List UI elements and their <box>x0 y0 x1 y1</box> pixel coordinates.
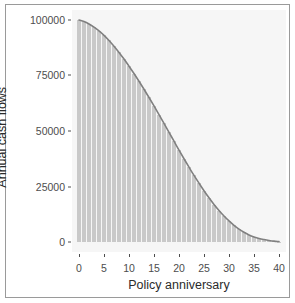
chart-figure: 0250005000075000100000 0510152025303540 … <box>0 0 295 303</box>
y-tick-mark <box>68 19 71 20</box>
x-tick-mark <box>129 254 130 257</box>
y-tick-label: 0 <box>59 237 65 248</box>
y-tick-mark <box>68 186 71 187</box>
x-tick-mark <box>154 254 155 257</box>
x-tick-mark <box>79 254 80 257</box>
x-tick-mark <box>104 254 105 257</box>
x-tick-label: 35 <box>248 263 260 274</box>
x-tick-label: 5 <box>101 263 107 274</box>
x-tick-mark <box>204 254 205 257</box>
y-tick-label: 100000 <box>30 15 65 26</box>
x-tick-label: 15 <box>148 263 160 274</box>
x-tick-label: 0 <box>76 263 82 274</box>
x-tick-label: 40 <box>273 263 285 274</box>
y-axis-title: Annual cash flows <box>0 87 8 188</box>
line-series-layer <box>72 10 286 252</box>
x-axis-title: Policy anniversary <box>72 279 286 292</box>
y-tick-label: 50000 <box>36 126 65 137</box>
x-tick-mark <box>254 254 255 257</box>
y-tick-mark <box>68 131 71 132</box>
y-tick-mark <box>68 242 71 243</box>
y-tick-label: 25000 <box>36 181 65 192</box>
y-tick-mark <box>68 75 71 76</box>
x-tick-mark <box>229 254 230 257</box>
plot-panel <box>72 10 286 252</box>
x-tick-label: 30 <box>223 263 235 274</box>
cash-flow-curve <box>79 20 279 242</box>
x-tick-label: 20 <box>173 263 185 274</box>
x-tick-mark <box>279 254 280 257</box>
x-tick-label: 25 <box>198 263 210 274</box>
x-tick-mark <box>179 254 180 257</box>
x-tick-label: 10 <box>123 263 135 274</box>
y-tick-label: 75000 <box>36 70 65 81</box>
